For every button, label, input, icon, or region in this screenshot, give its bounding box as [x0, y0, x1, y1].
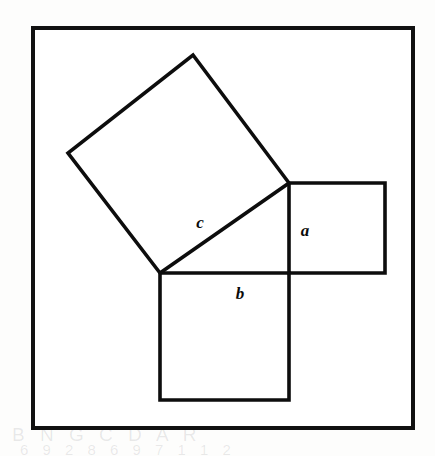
side-label-a: a — [301, 221, 310, 240]
diagram-canvas: a b c — [0, 0, 435, 456]
pythagorean-diagram-figure: s a b c d e B N G C D A R 6 9 2 8 6 9 7 … — [0, 0, 435, 456]
side-label-b: b — [236, 284, 245, 303]
side-label-c: c — [196, 213, 204, 232]
